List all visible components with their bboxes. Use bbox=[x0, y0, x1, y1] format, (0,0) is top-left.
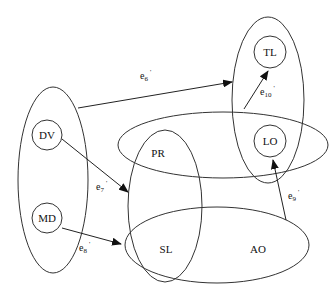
node-tl-label: TL bbox=[263, 46, 277, 58]
node-dv-label: DV bbox=[39, 129, 55, 141]
hypergraph-diagram: DV MD TL LO PR SL AO e6' e7' e8' e9' e10… bbox=[0, 0, 336, 297]
group-pr-lo-horizontal-ellipse bbox=[118, 112, 328, 178]
group-dv-md-ellipse bbox=[18, 87, 88, 273]
group-sl-ao-ellipse bbox=[125, 207, 309, 283]
edge-e9-arrow bbox=[273, 160, 286, 220]
node-ao-label: AO bbox=[250, 243, 266, 255]
edge-e6-label: e6' bbox=[140, 68, 151, 83]
edge-e6-arrow bbox=[78, 82, 232, 108]
edge-e9-label: e9' bbox=[288, 188, 299, 203]
edge-e8-arrow bbox=[62, 228, 121, 244]
group-tl-lo-ellipse bbox=[232, 17, 304, 183]
node-sl-label: SL bbox=[160, 243, 173, 255]
edge-e10-label: e10' bbox=[260, 84, 275, 99]
node-lo-label: LO bbox=[263, 135, 278, 147]
edge-e8-label: e8' bbox=[79, 240, 90, 255]
node-pr-label: PR bbox=[151, 147, 165, 159]
group-pr-sl-vertical-ellipse bbox=[128, 130, 202, 282]
edge-e7-label: e7' bbox=[96, 179, 107, 194]
node-md-label: MD bbox=[38, 212, 56, 224]
